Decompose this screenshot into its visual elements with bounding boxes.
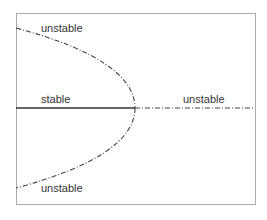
frame: [17, 14, 256, 205]
right-branch-label: unstable: [183, 93, 225, 105]
unstable-lower-branch-curve: [16, 108, 135, 188]
upper-branch-label: unstable: [41, 22, 83, 34]
stable-branch-label: stable: [41, 93, 70, 105]
unstable-upper-branch-curve: [16, 28, 135, 108]
lower-branch-label: unstable: [41, 182, 83, 194]
